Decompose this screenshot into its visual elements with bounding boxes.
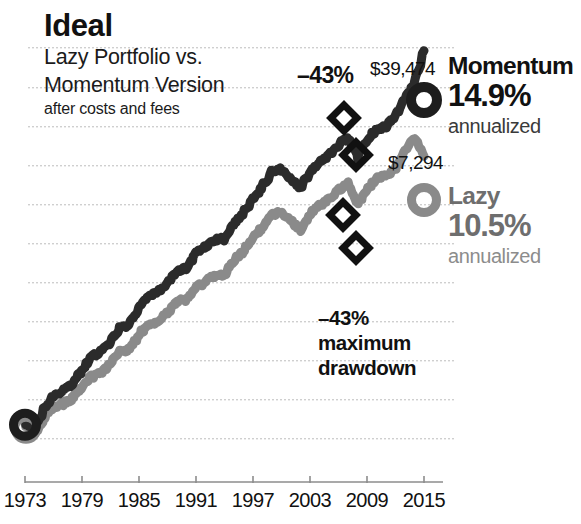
x-axis-tick-label: 1973 (4, 489, 47, 512)
legend-lazy-annualized: annualized (448, 245, 541, 267)
marker-lazy-end (412, 188, 437, 213)
annotation-drawdown-word-maximum: maximum (318, 330, 416, 355)
x-axis-tick-labels: 19731979198519911997200320092015 (0, 489, 581, 519)
series-line-lazy (25, 139, 424, 434)
legend-lazy-pct: 10.5% (448, 210, 541, 243)
gridline (26, 204, 456, 205)
x-axis-tick-label: 1979 (61, 489, 104, 512)
x-axis-tick-label: 2015 (403, 489, 446, 512)
gridline (26, 243, 456, 244)
annotation-drawdown-pct: –43% (318, 305, 416, 330)
marker-drawdown-diamond (343, 235, 369, 261)
x-axis-tick-label: 1985 (118, 489, 161, 512)
x-axis-tick-label: 2003 (289, 489, 332, 512)
callout-lazy-final-value: $7,294 (388, 152, 443, 174)
annotation-drawdown-block: –43% maximum drawdown (318, 305, 416, 380)
callout-momentum-final-value: $39,474 (370, 58, 435, 80)
gridline (26, 282, 456, 283)
marker-drawdown-diamond (330, 202, 356, 228)
page-title: Ideal (44, 10, 374, 42)
legend-entry-lazy: Lazy 10.5% annualized (448, 183, 541, 267)
chart-subnote: after costs and fees (44, 100, 374, 118)
gridline (26, 399, 456, 400)
x-axis-tick-label: 1991 (175, 489, 218, 512)
chart-x-axis (25, 476, 443, 483)
legend-momentum-name: Momentum (448, 53, 573, 79)
gridline (26, 438, 456, 439)
legend-momentum-pct: 14.9% (448, 80, 573, 113)
annotation-drawdown-word-drawdown: drawdown (318, 355, 416, 380)
legend-entry-momentum: Momentum 14.9% annualized (448, 53, 573, 137)
legend-momentum-annualized: annualized (448, 115, 573, 137)
marker-momentum-end (411, 87, 437, 113)
infographic-chart: Ideal Lazy Portfolio vs. Momentum Versio… (0, 0, 581, 524)
legend-lazy-name: Lazy (448, 183, 541, 209)
x-axis-tick-label: 1997 (232, 489, 275, 512)
annotation-drawdown-top: –43% (297, 62, 353, 89)
x-axis-tick-label: 2009 (346, 489, 389, 512)
